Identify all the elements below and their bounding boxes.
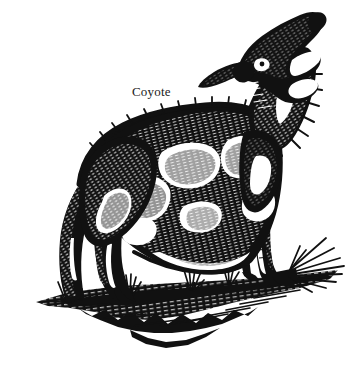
coyote-illustration xyxy=(0,0,356,370)
coyote-figure: Coyote xyxy=(0,0,356,370)
caption-label: Coyote xyxy=(132,84,171,100)
